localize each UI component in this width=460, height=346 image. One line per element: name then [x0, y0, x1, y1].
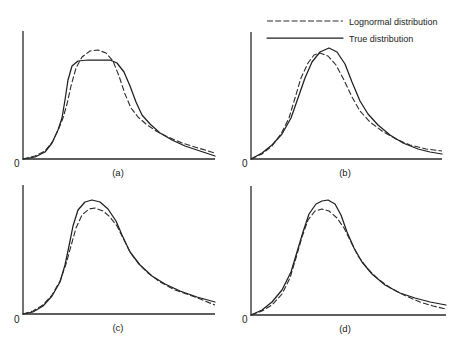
panel-b-true-curve	[251, 48, 442, 159]
panel-c-label: (c)	[112, 322, 123, 333]
legend-label-lognormal: Lognormal distribution	[349, 17, 438, 27]
panel-d-origin-label: 0	[242, 314, 248, 325]
panel-a: 0 (a)	[14, 31, 215, 178]
legend-label-true: True distribution	[349, 34, 413, 44]
panel-b: 0 (b)	[242, 32, 442, 178]
panel-a-axes	[23, 31, 215, 159]
figure-canvas: Lognormal distribution True distribution…	[0, 0, 460, 346]
panel-c-lognormal-curve	[23, 208, 215, 314]
panel-d-label: (d)	[339, 323, 351, 334]
panel-b-label: (b)	[339, 167, 351, 178]
panel-c: 0 (c)	[14, 185, 215, 333]
panel-a-origin-label: 0	[14, 158, 20, 169]
legend: Lognormal distribution True distribution	[267, 17, 438, 44]
panel-c-origin-label: 0	[14, 314, 20, 325]
panel-a-label: (a)	[112, 167, 124, 178]
panel-d: 0 (d)	[242, 186, 446, 334]
panel-c-true-curve	[23, 200, 215, 314]
panel-b-origin-label: 0	[242, 158, 248, 169]
panel-b-axes	[251, 32, 442, 159]
panel-d-true-curve	[251, 200, 446, 315]
